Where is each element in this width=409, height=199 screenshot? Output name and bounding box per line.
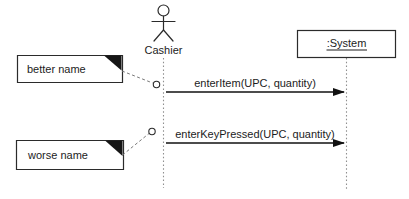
message-label: enterItem(UPC, quantity): [194, 77, 316, 89]
note-label: worse name: [27, 149, 88, 161]
note-better-name: better name: [18, 56, 123, 83]
note-connector-line: [123, 134, 150, 156]
diagram-canvas: Cashier :System better name enterItem(UP…: [0, 0, 409, 199]
message-enterkeypressed: enterKeyPressed(UPC, quantity): [166, 128, 344, 144]
note-connector-line: [122, 71, 153, 83]
actor-figure: [152, 5, 175, 41]
note-worse-name: worse name: [17, 141, 124, 170]
actor-right-leg: [164, 30, 174, 41]
note-anchor-circle: [153, 81, 159, 87]
message-label: enterKeyPressed(UPC, quantity): [175, 128, 335, 140]
note-anchor-circle: [149, 128, 155, 134]
actor-head-icon: [158, 5, 169, 16]
message-enteritem: enterItem(UPC, quantity): [166, 77, 344, 92]
uml-sequence-diagram: Cashier :System better name enterItem(UP…: [0, 0, 409, 199]
actor-left-leg: [154, 30, 164, 41]
note-label: better name: [27, 63, 86, 75]
actor-label: Cashier: [145, 44, 183, 56]
system-object-label: :System: [327, 37, 367, 49]
